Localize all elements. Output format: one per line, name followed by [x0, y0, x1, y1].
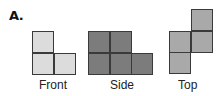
front-caption: Front — [39, 78, 67, 92]
grid-cell — [169, 52, 191, 74]
grid-cell — [191, 31, 213, 53]
grid-cell — [169, 31, 191, 53]
top-caption: Top — [178, 78, 197, 92]
grid-cell — [191, 9, 213, 31]
grid-cell — [88, 53, 110, 75]
figure-label: A. — [9, 8, 23, 23]
grid-cell — [110, 31, 132, 53]
grid-cell — [110, 53, 132, 75]
grid-cell — [54, 53, 76, 75]
side-caption: Side — [110, 78, 134, 92]
grid-cell — [32, 53, 54, 75]
grid-cell — [88, 31, 110, 53]
grid-cell — [32, 31, 54, 53]
grid-cell — [131, 53, 153, 75]
